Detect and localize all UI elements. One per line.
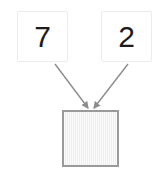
diagram-canvas: 7 2 xyxy=(0,0,168,180)
left-operand-value: 7 xyxy=(34,22,51,52)
result-slot-value xyxy=(64,112,117,165)
right-operand-card[interactable]: 2 xyxy=(101,11,152,62)
left-operand-card[interactable]: 7 xyxy=(17,11,68,62)
arrow-right-operand-to-result xyxy=(94,64,128,108)
arrow-left-operand-to-result xyxy=(55,64,88,108)
right-operand-value: 2 xyxy=(118,22,135,52)
result-slot[interactable] xyxy=(62,110,119,167)
